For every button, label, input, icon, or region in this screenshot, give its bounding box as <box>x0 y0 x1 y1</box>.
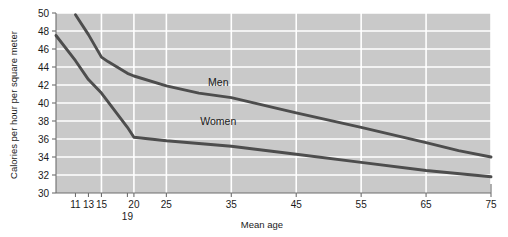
y-tick-label: 30 <box>38 188 50 199</box>
x-tick-label: 19 <box>122 211 134 222</box>
y-tick-label: 32 <box>38 170 50 181</box>
x-tick-label: 25 <box>161 199 173 210</box>
x-tick-label: 65 <box>421 199 433 210</box>
y-tick-label: 40 <box>38 98 50 109</box>
y-tick-label: 36 <box>38 134 50 145</box>
y-tick-label: 38 <box>38 116 50 127</box>
chart-container: 3032343638404244464850 11131519202535455… <box>0 0 508 237</box>
x-tick-label: 75 <box>485 199 497 210</box>
y-axis-title: Calories per hour per square meter <box>8 31 19 179</box>
series-label-men: Men <box>208 76 229 88</box>
x-tick-label: 13 <box>83 199 95 210</box>
x-tick-label: 20 <box>128 199 140 210</box>
y-tick-label: 44 <box>38 62 50 73</box>
x-tick-label: 45 <box>291 199 303 210</box>
y-axis-ticks <box>52 13 56 193</box>
y-tick-label: 42 <box>38 80 50 91</box>
y-tick-label: 46 <box>38 44 50 55</box>
y-tick-label: 34 <box>38 152 50 163</box>
x-tick-label: 15 <box>96 199 108 210</box>
x-tick-label: 55 <box>356 199 368 210</box>
x-axis-ticks <box>75 193 491 197</box>
line-chart: 3032343638404244464850 11131519202535455… <box>0 0 508 237</box>
x-axis-tick-labels: 1113151920253545556575 <box>70 199 497 222</box>
series-label-women: Women <box>200 115 236 127</box>
y-axis-tick-labels: 3032343638404244464850 <box>38 8 50 199</box>
y-tick-label: 50 <box>38 8 50 19</box>
x-tick-label: 11 <box>70 199 81 210</box>
x-axis-title: Mean age <box>241 219 283 230</box>
y-tick-label: 48 <box>38 26 50 37</box>
x-tick-label: 35 <box>226 199 238 210</box>
